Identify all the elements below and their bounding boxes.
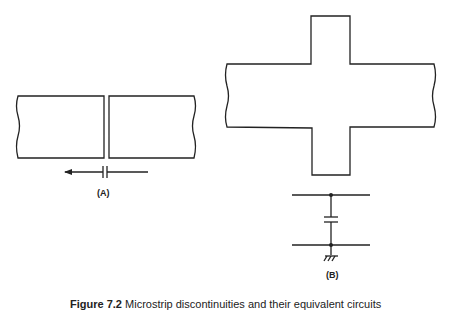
ground-icon bbox=[324, 256, 338, 261]
series-capacitor-circuit bbox=[65, 166, 148, 178]
caption-prefix: Figure 7.2 bbox=[70, 298, 122, 310]
node-dot bbox=[329, 193, 333, 197]
cross-junction bbox=[226, 16, 436, 175]
left-strip bbox=[17, 96, 105, 158]
arrow-icon bbox=[64, 169, 72, 175]
caption-text: Microstrip discontinuities and their equ… bbox=[125, 298, 381, 310]
node-dot bbox=[329, 243, 333, 247]
right-strip bbox=[109, 96, 196, 158]
panel-a-label: (A) bbox=[97, 188, 110, 198]
figure-caption: Figure 7.2 Microstrip discontinuities an… bbox=[70, 298, 381, 310]
panel-b-label: (B) bbox=[326, 270, 339, 280]
